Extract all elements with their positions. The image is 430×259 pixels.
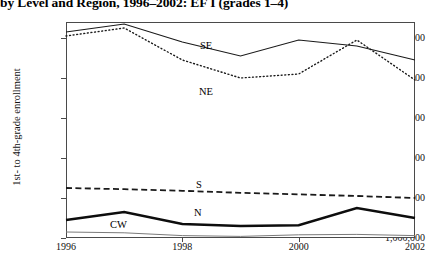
x-tick-mark: [299, 238, 300, 242]
x-tick-label: 2002: [385, 241, 430, 253]
series-label-ne: NE: [199, 86, 213, 97]
x-tick-label: 2000: [269, 241, 329, 253]
series-canvas: [66, 22, 415, 238]
series-label-se: SE: [200, 40, 212, 51]
x-tick-label: 1998: [152, 241, 212, 253]
x-tick-label: 1996: [36, 241, 96, 253]
series-label-n: N: [194, 207, 202, 218]
x-tick-mark: [182, 238, 183, 242]
series-label-cw: CW: [110, 219, 127, 230]
series-line-ne: [66, 28, 415, 80]
y-tick-mark: [61, 238, 66, 239]
y-axis-title: 1st- to 4th-grade enrollment: [10, 17, 24, 237]
series-label-s: S: [196, 179, 202, 190]
chart-title: by Level and Region, 1996–2002: EF I (gr…: [0, 0, 425, 11]
series-line-s: [66, 188, 415, 198]
series-line-se: [66, 24, 415, 60]
series-line-cw: [66, 232, 415, 236]
